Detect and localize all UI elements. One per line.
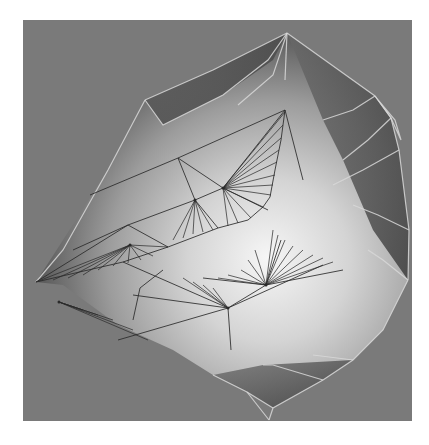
fan-vertex	[265, 284, 268, 287]
fan-vertex	[222, 187, 225, 190]
fan-vertex	[58, 301, 61, 304]
fan-vertex	[227, 307, 230, 310]
render-viewport	[23, 20, 412, 421]
fan-vertex	[129, 244, 132, 247]
fan-vertex	[194, 199, 197, 202]
wireframe-mesh-render	[23, 20, 412, 421]
